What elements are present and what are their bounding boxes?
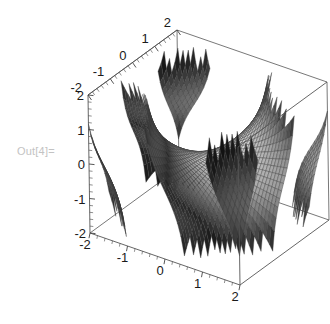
axis-tick-major — [239, 285, 240, 290]
axis-tick-major — [110, 79, 114, 84]
axis-tick-minor — [168, 37, 170, 40]
axis-tick-minor — [157, 256, 158, 259]
axis-tick-minor — [106, 82, 108, 85]
y-tick-label: 2 — [164, 15, 171, 30]
axis-tick-minor — [92, 92, 94, 95]
axis-tick-major — [202, 272, 203, 277]
axis-tick-minor — [224, 280, 225, 283]
y-tick-label: -1 — [93, 64, 105, 79]
axis-tick-minor — [112, 241, 113, 244]
axis-tick-major — [88, 95, 94, 96]
z-tick-label: 2 — [77, 88, 84, 103]
notebook-output-cell: Out[4]= -2-1012-2-1012-2-1012 — [0, 0, 330, 324]
axis-tick-minor — [101, 85, 103, 88]
axis-tick-minor — [179, 264, 180, 267]
axis-tick-minor — [150, 50, 152, 53]
axis-tick-major — [89, 130, 95, 131]
axis-tick-minor — [119, 72, 121, 75]
axis-tick-minor — [128, 66, 130, 69]
axis-tick-minor — [134, 249, 135, 252]
axis-tick-minor — [119, 243, 120, 246]
axis-tick-minor — [141, 56, 143, 59]
axis-tick-major — [90, 233, 96, 234]
x-tick-label: 2 — [231, 289, 238, 304]
axis-tick-minor — [142, 251, 143, 254]
axis-tick-minor — [217, 277, 218, 280]
y-tick-label: 0 — [119, 48, 126, 63]
axis-tick-major — [164, 259, 165, 264]
axis-tick-minor — [124, 69, 126, 72]
axis-tick-major — [133, 63, 137, 68]
y-tick-label: 1 — [142, 31, 149, 46]
axis-tick-minor — [172, 262, 173, 265]
axis-tick-minor — [164, 40, 166, 43]
axis-tick-major — [89, 164, 95, 165]
plot-canvas[interactable]: -2-1012-2-1012-2-1012 — [60, 0, 330, 324]
axis-tick-major — [90, 199, 96, 200]
axis-tick-minor — [232, 282, 233, 285]
x-tick-label: -2 — [79, 237, 91, 252]
axis-tick-minor — [149, 254, 150, 257]
z-tick-label: 0 — [78, 157, 85, 172]
z-tick-label: 1 — [77, 123, 84, 138]
axis-tick-minor — [104, 238, 105, 241]
axis-tick-minor — [137, 59, 139, 62]
x-tick-label: 0 — [156, 263, 163, 278]
surface-plot-3d[interactable]: -2-1012-2-1012-2-1012 — [60, 0, 330, 324]
axis-tick-minor — [115, 76, 117, 79]
axis-tick-minor — [146, 53, 148, 56]
axis-tick-minor — [159, 43, 161, 46]
axis-tick-minor — [194, 269, 195, 272]
axis-tick-minor — [173, 33, 175, 36]
axis-tick-minor — [187, 267, 188, 270]
surface-cell — [121, 209, 127, 236]
x-tick-label: -1 — [117, 250, 129, 265]
x-tick-label: 1 — [194, 276, 201, 291]
axis-tick-minor — [97, 89, 99, 92]
surface-mesh — [88, 47, 327, 258]
output-cell-label: Out[4]= — [17, 145, 55, 157]
axis-tick-minor — [97, 236, 98, 239]
box-edge — [327, 82, 329, 220]
axis-tick-minor — [209, 275, 210, 278]
z-tick-label: -1 — [74, 192, 86, 207]
axis-tick-major — [155, 46, 159, 51]
